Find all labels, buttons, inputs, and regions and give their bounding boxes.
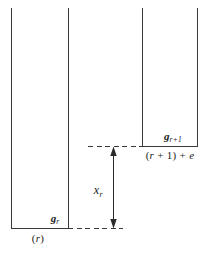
figure-container: gr (r) gr+1 (r + 1) + e xr bbox=[0, 0, 203, 254]
measurement-label-main: x bbox=[94, 183, 99, 197]
measurement-label-subscript: r bbox=[100, 190, 103, 199]
left-column-shape bbox=[11, 8, 69, 229]
measurement-arrow-head-up bbox=[110, 147, 116, 157]
right-base-middle-text: + 1) + bbox=[154, 149, 189, 161]
right-column-shape bbox=[142, 8, 198, 147]
measurement-label: xr bbox=[94, 184, 102, 196]
left-column-base-label: (r) bbox=[32, 233, 45, 244]
left-column-inner-label: gr bbox=[51, 213, 60, 224]
right-column-inner-label-subscript: r+1 bbox=[170, 135, 182, 144]
measurement-arrow bbox=[110, 147, 116, 229]
right-base-variable-e: e bbox=[189, 149, 194, 161]
left-column-inner-label-subscript: r bbox=[56, 217, 59, 226]
right-column-base-label: (r + 1) + e bbox=[146, 150, 195, 161]
left-base-paren-close: ) bbox=[40, 232, 44, 244]
figure-drawing bbox=[0, 0, 203, 254]
left-column-inner-label-main: g bbox=[51, 212, 57, 224]
measurement-arrow-head-down bbox=[110, 219, 116, 229]
right-column-inner-label-main: g bbox=[164, 130, 170, 142]
right-column-inner-label: gr+1 bbox=[164, 131, 182, 142]
